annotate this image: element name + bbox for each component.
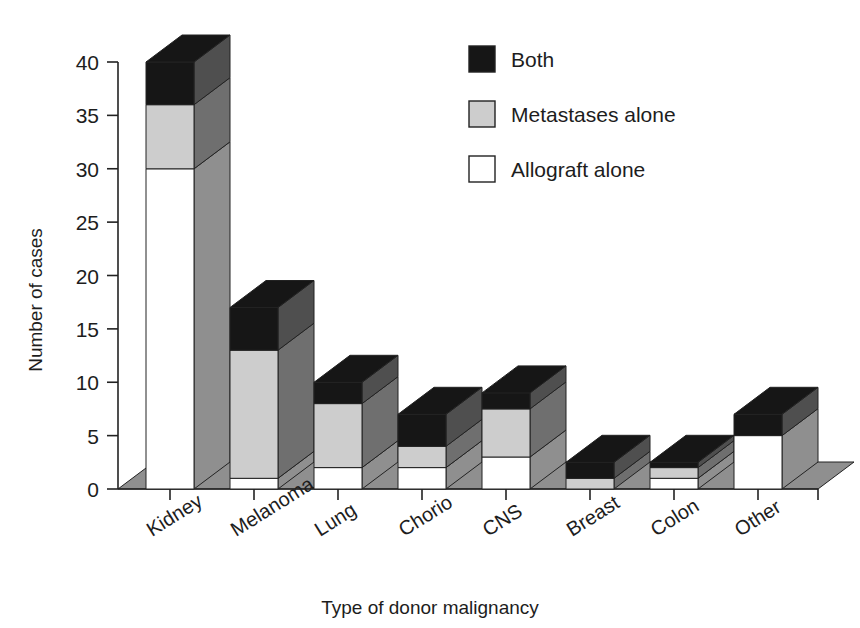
bar-front-face	[314, 382, 362, 403]
x-category-label: Other	[730, 495, 784, 540]
bar-front-face	[650, 468, 698, 479]
x-category-label: Colon	[646, 494, 702, 540]
bar-front-face	[398, 414, 446, 446]
x-category-label: Kidney	[142, 489, 206, 540]
bar-front-face	[230, 350, 278, 478]
x-category-label: Lung	[310, 498, 359, 540]
bar-front-face	[230, 478, 278, 489]
y-tick-label: 40	[76, 51, 99, 74]
bar-front-face	[314, 404, 362, 468]
legend-label-both: Both	[511, 48, 554, 71]
y-tick-label: 35	[76, 104, 99, 127]
bar-front-face	[398, 446, 446, 467]
y-axis-title: Number of cases	[25, 228, 46, 372]
y-tick-label: 20	[76, 265, 99, 288]
x-category-label: Chorio	[394, 491, 456, 541]
bar-front-face	[146, 105, 194, 169]
bar-front-face	[650, 478, 698, 489]
legend-label-allograft-alone: Allograft alone	[511, 158, 645, 181]
x-axis-title: Type of donor malignancy	[321, 597, 539, 618]
x-category-label: CNS	[478, 499, 525, 540]
bar-front-face	[734, 414, 782, 435]
y-tick-label: 10	[76, 371, 99, 394]
bar-front-face	[146, 169, 194, 489]
stacked-bar-chart: 0510152025303540KidneyMelanomaLungChorio…	[0, 0, 860, 628]
bar-front-face	[482, 393, 530, 409]
chart-figure: 0510152025303540KidneyMelanomaLungChorio…	[0, 0, 860, 628]
bar-front-face	[314, 468, 362, 489]
y-tick-label: 5	[87, 425, 99, 448]
bar-front-face	[650, 462, 698, 467]
y-tick-label: 0	[87, 478, 99, 501]
bar-front-face	[482, 457, 530, 489]
legend-swatch-allograft-alone	[469, 156, 495, 182]
bar-front-face	[566, 462, 614, 478]
legend-swatch-metastases-alone	[469, 101, 495, 127]
legend-swatch-both	[469, 46, 495, 72]
bar-front-face	[734, 436, 782, 489]
legend-label-metastases-alone: Metastases alone	[511, 103, 676, 126]
x-category-label: Breast	[562, 491, 623, 541]
bar-side-face	[194, 142, 230, 489]
bar-front-face	[230, 308, 278, 351]
y-tick-label: 30	[76, 158, 99, 181]
bar-front-face	[566, 478, 614, 489]
y-tick-label: 15	[76, 318, 99, 341]
bar-front-face	[482, 409, 530, 457]
y-tick-label: 25	[76, 211, 99, 234]
bar-front-face	[398, 468, 446, 489]
bar-front-face	[146, 62, 194, 105]
